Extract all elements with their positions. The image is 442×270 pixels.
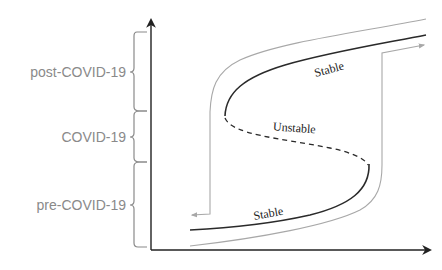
label-unstable: Unstable	[273, 119, 317, 136]
brace-post-covid	[130, 32, 147, 111]
trajectory-down-path	[192, 19, 426, 215]
brace-covid	[130, 111, 147, 162]
label-upper-stable: Stable	[313, 59, 346, 80]
label-lower-stable: Stable	[252, 204, 284, 223]
phase-label-covid: COVID-19	[61, 129, 126, 145]
brace-pre-covid	[130, 162, 147, 247]
hysteresis-diagram: post-COVID-19 COVID-19 pre-COVID-19 Stab…	[0, 0, 442, 270]
phase-label-post-covid: post-COVID-19	[30, 64, 126, 80]
phase-label-pre-covid: pre-COVID-19	[37, 197, 127, 213]
lower-stable-branch	[190, 164, 369, 230]
